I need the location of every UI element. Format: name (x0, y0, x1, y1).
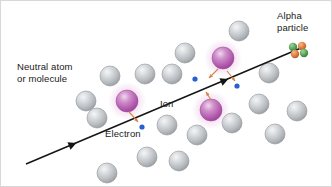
alpha-nucleon-neutron (300, 49, 308, 57)
label-neutral-atom: Neutral atom or molecule (17, 61, 73, 85)
neutral-atom (97, 163, 117, 183)
neutral-atom (187, 125, 207, 145)
ion (200, 99, 222, 121)
neutral-atom (169, 151, 189, 171)
electron (234, 83, 239, 88)
label-ion: Ion (160, 98, 174, 110)
neutral-atom (76, 91, 96, 111)
neutral-atom (287, 101, 307, 121)
neutral-atom (135, 64, 155, 84)
label-electron: Electron (105, 128, 141, 140)
ion (212, 47, 234, 69)
electron (192, 76, 197, 81)
neutral-atom (265, 124, 285, 144)
neutral-atom (259, 63, 279, 83)
neutral-atom (175, 43, 195, 63)
alpha-nucleon-proton (291, 50, 299, 58)
neutral-atom (249, 94, 269, 114)
trajectory-arrowhead (67, 139, 77, 149)
neutral-atom (229, 21, 249, 41)
ion (116, 90, 138, 112)
neutral-atom (87, 108, 107, 128)
ionization-diagram: Neutral atom or molecule Alpha particle … (0, 0, 332, 187)
neutral-atom (137, 147, 157, 167)
neutral-atom (100, 66, 120, 86)
neutral-atom (162, 64, 182, 84)
label-alpha-particle: Alpha particle (277, 10, 308, 34)
alpha-particle (289, 42, 308, 58)
neutral-atom (157, 115, 177, 135)
